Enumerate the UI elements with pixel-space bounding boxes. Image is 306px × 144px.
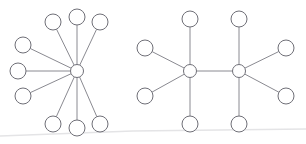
graph-node-leaf-R-a4 — [137, 88, 153, 104]
graph-node-leaf-L-n3 — [92, 14, 108, 30]
graph-node-leaf-R-b3 — [278, 40, 294, 56]
graph-node-leaf-L-n1 — [45, 14, 61, 30]
graph-node-leaf-L-n2 — [69, 9, 85, 25]
graph-node-leaf-R-b2 — [231, 116, 247, 132]
graph-node-hub-L-hub — [71, 65, 84, 78]
graph-node-leaf-R-a3 — [137, 40, 153, 56]
graph-node-leaf-L-n5 — [10, 63, 26, 79]
graph-node-leaf-R-a1 — [182, 11, 198, 27]
graph-node-leaf-R-a2 — [182, 116, 198, 132]
graph-node-hub-R-hubB — [233, 65, 246, 78]
graph-node-hub-R-hubA — [184, 65, 197, 78]
graph-node-leaf-R-b4 — [278, 88, 294, 104]
graph-node-leaf-L-n8 — [69, 120, 85, 136]
graph-node-leaf-L-n4 — [15, 37, 31, 53]
graph-node-leaf-L-n9 — [92, 116, 108, 132]
graph-node-leaf-L-n7 — [45, 116, 61, 132]
graph-node-leaf-R-b1 — [231, 11, 247, 27]
graph-figure-canvas — [0, 0, 306, 144]
graph-node-leaf-L-n6 — [15, 88, 31, 104]
